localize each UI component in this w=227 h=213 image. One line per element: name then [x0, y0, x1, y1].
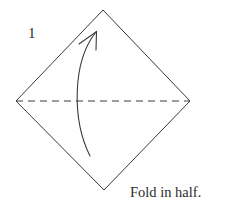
origami-fold-diagram: 1 Fold in half. — [0, 0, 227, 213]
step-number-label: 1 — [28, 26, 36, 41]
fold-arrow-shaft — [77, 32, 96, 156]
instruction-caption: Fold in half. — [130, 185, 201, 200]
paper-square-outline — [16, 10, 190, 190]
